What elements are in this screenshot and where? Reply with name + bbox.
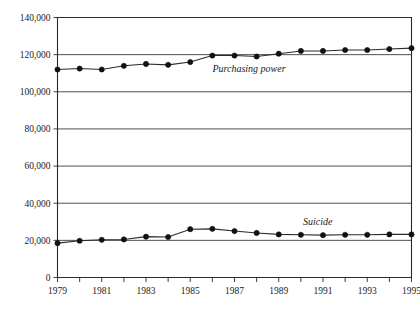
x-axis-label-1981: 1981 bbox=[92, 286, 111, 296]
data-point-1991 bbox=[320, 233, 325, 238]
data-point-1985 bbox=[188, 227, 193, 232]
data-point-1988 bbox=[254, 230, 259, 235]
data-point-1987 bbox=[232, 228, 237, 233]
data-point-1995 bbox=[409, 46, 414, 51]
y-axis-label-60000: 60,000 bbox=[24, 161, 50, 171]
x-axis-label-1989: 1989 bbox=[269, 286, 288, 296]
data-point-1988 bbox=[254, 54, 259, 59]
data-point-1989 bbox=[276, 51, 281, 56]
data-point-1983 bbox=[143, 61, 148, 66]
y-axis-label-0: 0 bbox=[46, 273, 51, 283]
x-axis-label-1993: 1993 bbox=[358, 286, 377, 296]
data-point-1992 bbox=[343, 47, 348, 52]
series-label-1: Suicide bbox=[303, 216, 333, 227]
data-point-1995 bbox=[409, 232, 414, 237]
data-point-1989 bbox=[276, 232, 281, 237]
x-axis-label-1991: 1991 bbox=[314, 286, 333, 296]
y-axis-label-40000: 40,000 bbox=[24, 199, 50, 209]
data-point-1980 bbox=[77, 66, 82, 71]
series-label-0: Purchasing power bbox=[211, 63, 285, 74]
series-suicide bbox=[55, 226, 414, 246]
x-axis-label-1985: 1985 bbox=[181, 286, 200, 296]
data-point-1991 bbox=[320, 48, 325, 53]
data-point-1986 bbox=[210, 53, 215, 58]
data-point-1982 bbox=[121, 63, 126, 68]
data-point-1985 bbox=[188, 59, 193, 64]
data-point-1981 bbox=[99, 67, 104, 72]
y-axis-label-100000: 100,000 bbox=[20, 87, 51, 97]
data-point-1993 bbox=[365, 232, 370, 237]
data-point-1983 bbox=[143, 234, 148, 239]
data-point-1993 bbox=[365, 47, 370, 52]
data-point-1984 bbox=[166, 234, 171, 239]
x-axis-label-1983: 1983 bbox=[137, 286, 156, 296]
data-point-1986 bbox=[210, 226, 215, 231]
data-point-1992 bbox=[343, 232, 348, 237]
x-axis-label-1995: 1995 bbox=[402, 286, 420, 296]
y-axis-label-120000: 120,000 bbox=[20, 50, 51, 60]
data-point-1982 bbox=[121, 237, 126, 242]
y-axis-label-80000: 80,000 bbox=[24, 124, 50, 134]
chart-figure: 020,00040,00060,00080,000100,000120,0001… bbox=[0, 0, 420, 312]
line-chart: 020,00040,00060,00080,000100,000120,0001… bbox=[0, 0, 420, 312]
data-point-1984 bbox=[166, 62, 171, 67]
x-axis-group: 197919811983198519871989199119931995 bbox=[48, 278, 420, 296]
x-axis-label-1987: 1987 bbox=[225, 286, 244, 296]
data-point-1979 bbox=[55, 241, 60, 246]
data-point-1980 bbox=[77, 238, 82, 243]
data-point-1979 bbox=[55, 67, 60, 72]
data-point-1994 bbox=[387, 232, 392, 237]
y-axis-label-140000: 140,000 bbox=[20, 13, 51, 23]
y-axis-label-20000: 20,000 bbox=[24, 236, 50, 246]
data-point-1994 bbox=[387, 46, 392, 51]
data-point-1990 bbox=[298, 48, 303, 53]
data-point-1987 bbox=[232, 53, 237, 58]
x-axis-label-1979: 1979 bbox=[48, 286, 67, 296]
data-point-1990 bbox=[298, 232, 303, 237]
data-point-1981 bbox=[99, 237, 104, 242]
